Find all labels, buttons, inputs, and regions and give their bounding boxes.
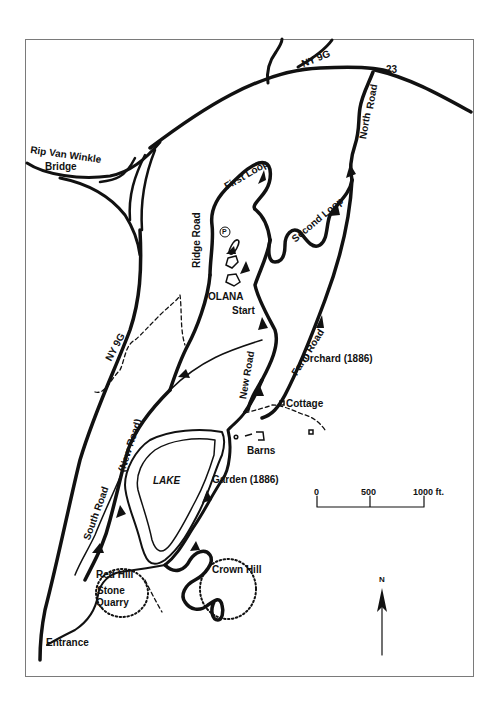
bridge-ramp-4	[142, 150, 155, 230]
olana-studio	[226, 274, 240, 286]
label-start: Start	[232, 306, 255, 316]
label-olana: OLANA	[208, 292, 244, 302]
route-23	[375, 70, 471, 112]
switchback-road	[165, 551, 223, 620]
barn-silo	[234, 435, 238, 439]
label-stone: Stone	[97, 586, 125, 596]
label-crown-hill: Crown Hill	[212, 565, 261, 575]
direction-arrow	[190, 541, 200, 551]
scale-tick-0: 0	[314, 488, 319, 497]
trail-west	[95, 295, 185, 392]
label-orchard: Orchard (1886)	[302, 354, 373, 364]
label-lake: LAKE	[153, 476, 180, 486]
label-barns: Barns	[247, 446, 275, 456]
north-label: N	[379, 576, 385, 584]
scale-bar-line	[317, 496, 424, 507]
direction-arrow	[240, 261, 250, 274]
label-route-23: 23	[386, 65, 397, 75]
label-cottage: Cottage	[286, 399, 323, 409]
label-bridge-line2: Bridge	[45, 162, 77, 172]
label-ridge-road: Ridge Road	[192, 212, 202, 268]
ny9g-highway	[150, 67, 390, 148]
olana-house	[226, 256, 238, 268]
direction-arrow	[116, 505, 126, 518]
bridge-ramp-1	[60, 178, 140, 255]
label-red-hill: Red Hill	[96, 570, 133, 580]
farm-road	[262, 180, 352, 418]
label-parking: P	[222, 228, 227, 235]
direction-arrow	[258, 317, 268, 330]
scale-tick-500: 500	[361, 488, 376, 497]
label-quarry: Quarry	[96, 598, 129, 608]
scale-tick-1000: 1000 ft.	[413, 488, 444, 497]
outbuilding	[309, 430, 313, 434]
lake-road	[165, 412, 245, 565]
lake-inner	[137, 439, 215, 551]
label-entrance: Entrance	[46, 638, 89, 648]
direction-arrow	[346, 164, 356, 178]
barn-building	[245, 432, 264, 440]
label-garden: Garden (1886)	[212, 475, 279, 485]
